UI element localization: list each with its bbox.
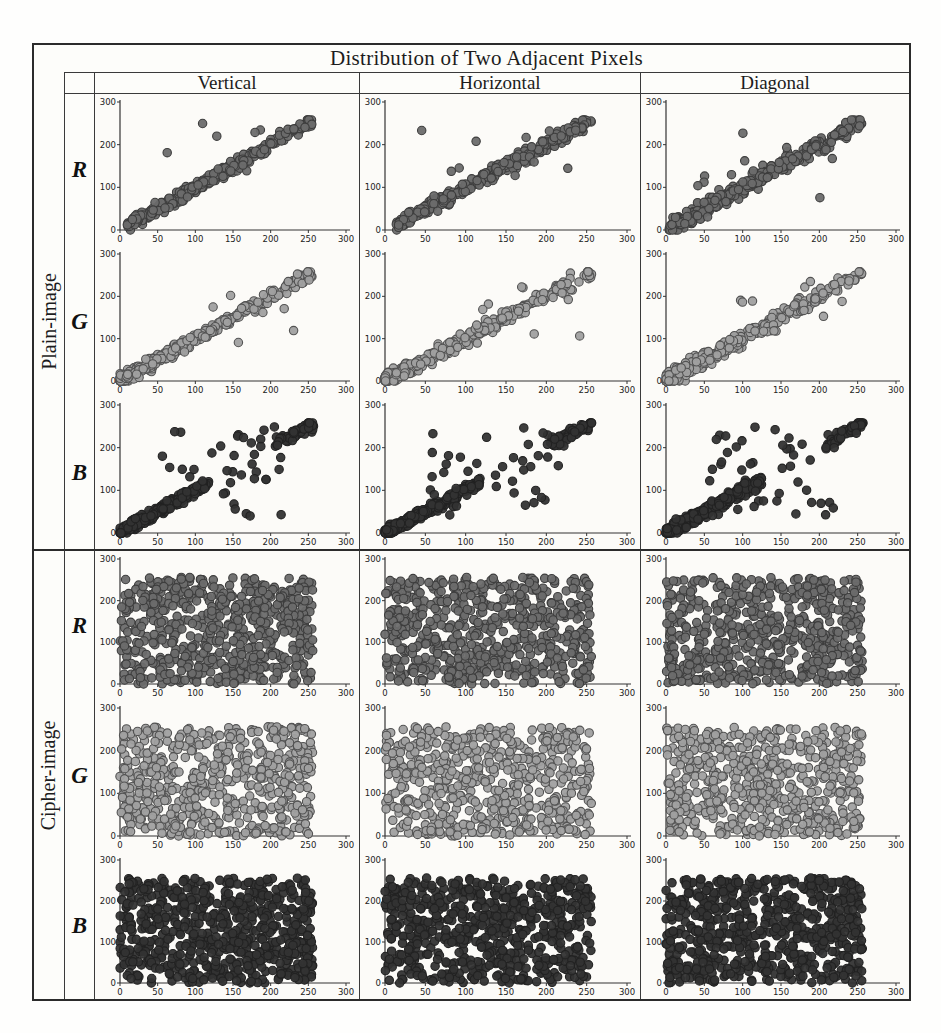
svg-text:100: 100 — [646, 485, 662, 495]
svg-text:200: 200 — [646, 291, 662, 301]
svg-text:200: 200 — [100, 291, 116, 301]
svg-text:50: 50 — [420, 234, 431, 244]
svg-text:50: 50 — [152, 688, 163, 698]
svg-text:300: 300 — [888, 385, 904, 395]
svg-text:150: 150 — [498, 840, 514, 850]
svg-text:0: 0 — [657, 376, 662, 386]
svg-text:300: 300 — [619, 385, 635, 395]
svg-text:300: 300 — [888, 987, 904, 997]
svg-text:250: 250 — [300, 537, 316, 547]
subplot-plain-g-diagonal: 0501001502002503000100200300 — [640, 246, 909, 397]
channel-label-plain-b: B — [64, 397, 94, 549]
svg-text:0: 0 — [117, 688, 122, 698]
svg-text:100: 100 — [735, 385, 751, 395]
svg-text:0: 0 — [111, 831, 116, 841]
svg-text:100: 100 — [646, 788, 662, 798]
svg-text:300: 300 — [888, 688, 904, 698]
subplot-cipher-r-diagonal: 0501001502002503000100200300 — [640, 549, 909, 700]
svg-text:250: 250 — [300, 987, 316, 997]
svg-text:150: 150 — [773, 987, 789, 997]
svg-text:250: 250 — [850, 688, 866, 698]
svg-text:50: 50 — [420, 537, 431, 547]
svg-text:100: 100 — [735, 234, 751, 244]
svg-text:300: 300 — [100, 97, 116, 107]
svg-text:200: 200 — [811, 840, 827, 850]
svg-text:300: 300 — [646, 249, 662, 259]
svg-text:0: 0 — [657, 225, 662, 235]
svg-text:150: 150 — [498, 688, 514, 698]
svg-text:300: 300 — [100, 400, 116, 410]
svg-text:100: 100 — [187, 537, 203, 547]
svg-text:100: 100 — [100, 788, 116, 798]
svg-text:250: 250 — [579, 688, 595, 698]
svg-text:100: 100 — [100, 182, 116, 192]
svg-text:200: 200 — [365, 140, 381, 150]
svg-text:0: 0 — [382, 385, 387, 395]
svg-text:100: 100 — [458, 987, 474, 997]
svg-text:0: 0 — [117, 537, 122, 547]
svg-text:100: 100 — [735, 688, 751, 698]
svg-text:50: 50 — [152, 840, 163, 850]
svg-text:200: 200 — [811, 537, 827, 547]
channel-label-plain-g: G — [64, 246, 94, 397]
svg-text:0: 0 — [376, 679, 381, 689]
svg-text:200: 200 — [811, 987, 827, 997]
svg-text:200: 200 — [538, 234, 554, 244]
svg-text:50: 50 — [420, 688, 431, 698]
svg-text:100: 100 — [365, 937, 381, 947]
svg-text:200: 200 — [100, 746, 116, 756]
svg-text:200: 200 — [100, 140, 116, 150]
svg-text:0: 0 — [382, 840, 387, 850]
svg-text:50: 50 — [699, 385, 710, 395]
svg-text:200: 200 — [263, 234, 279, 244]
corner-spacer — [34, 45, 64, 73]
svg-text:200: 200 — [538, 840, 554, 850]
svg-text:250: 250 — [300, 234, 316, 244]
svg-text:250: 250 — [300, 385, 316, 395]
svg-text:100: 100 — [365, 788, 381, 798]
svg-text:300: 300 — [365, 554, 381, 564]
svg-text:0: 0 — [382, 987, 387, 997]
svg-text:200: 200 — [538, 987, 554, 997]
svg-text:200: 200 — [811, 385, 827, 395]
svg-text:100: 100 — [187, 987, 203, 997]
svg-text:300: 300 — [338, 688, 354, 698]
svg-text:300: 300 — [646, 400, 662, 410]
subplot-plain-b-diagonal: 0501001502002503000100200300 — [640, 397, 909, 549]
subplot-cipher-b-horizontal: 0501001502002503000100200300 — [359, 852, 640, 999]
svg-text:50: 50 — [420, 840, 431, 850]
svg-text:300: 300 — [100, 855, 116, 865]
svg-text:200: 200 — [365, 896, 381, 906]
svg-text:200: 200 — [100, 443, 116, 453]
svg-text:0: 0 — [657, 978, 662, 988]
svg-text:250: 250 — [850, 987, 866, 997]
svg-text:250: 250 — [300, 840, 316, 850]
svg-text:250: 250 — [579, 987, 595, 997]
svg-text:200: 200 — [646, 443, 662, 453]
svg-text:150: 150 — [225, 688, 241, 698]
svg-text:300: 300 — [365, 703, 381, 713]
svg-text:250: 250 — [300, 688, 316, 698]
svg-text:0: 0 — [117, 987, 122, 997]
svg-text:0: 0 — [657, 679, 662, 689]
svg-text:250: 250 — [850, 537, 866, 547]
svg-text:0: 0 — [117, 234, 122, 244]
svg-text:300: 300 — [619, 234, 635, 244]
subplot-plain-r-vertical: 0501001502002503000100200300 — [94, 94, 359, 246]
svg-text:50: 50 — [699, 987, 710, 997]
header-spacer-1 — [34, 73, 64, 94]
svg-text:0: 0 — [376, 978, 381, 988]
svg-text:0: 0 — [663, 537, 668, 547]
svg-text:100: 100 — [100, 937, 116, 947]
svg-text:300: 300 — [338, 385, 354, 395]
svg-text:50: 50 — [699, 688, 710, 698]
svg-text:250: 250 — [579, 537, 595, 547]
svg-text:200: 200 — [263, 537, 279, 547]
svg-text:300: 300 — [619, 688, 635, 698]
subplot-cipher-g-horizontal: 0501001502002503000100200300 — [359, 700, 640, 852]
subplot-plain-g-vertical: 0501001502002503000100200300 — [94, 246, 359, 397]
svg-text:300: 300 — [888, 840, 904, 850]
svg-text:300: 300 — [619, 537, 635, 547]
svg-text:100: 100 — [187, 688, 203, 698]
svg-text:0: 0 — [376, 528, 381, 538]
